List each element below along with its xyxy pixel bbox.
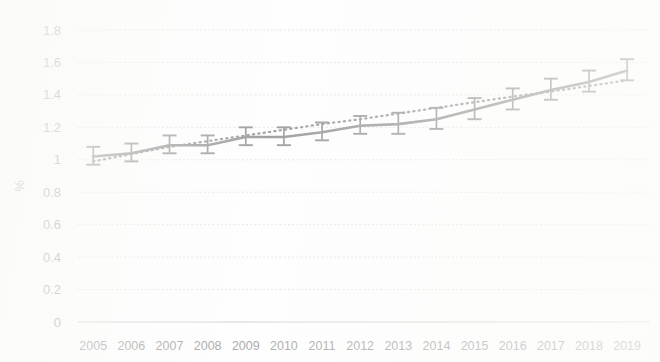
chart-container: 00.20.40.60.811.21.41.61.8%2005200620072… [0, 0, 660, 362]
ytick-label: 1.4 [43, 87, 61, 102]
data-series-line [93, 71, 627, 157]
xtick-label: 2010 [270, 339, 298, 353]
xtick-label: 2012 [346, 339, 374, 353]
ytick-label: 0.8 [43, 185, 61, 200]
xtick-label: 2016 [499, 339, 527, 353]
y-axis-title: % [12, 180, 27, 192]
xtick-label: 2013 [384, 339, 412, 353]
ytick-label: 0.4 [43, 250, 61, 265]
ytick-label: 0.6 [43, 217, 61, 232]
ytick-label: 1.8 [43, 23, 61, 38]
gridlines-group: 00.20.40.60.811.21.41.61.8 [43, 23, 650, 330]
xtick-label: 2011 [309, 339, 336, 353]
ytick-label: 0.2 [43, 282, 61, 297]
error-bars-group [86, 59, 634, 164]
xtick-labels-group: 2005200620072008200920102011201220132014… [79, 339, 641, 353]
xtick-label: 2009 [232, 339, 260, 353]
ytick-label: 1.2 [43, 120, 61, 135]
xtick-label: 2008 [194, 339, 222, 353]
ytick-label: 0 [54, 315, 61, 330]
xtick-label: 2006 [117, 339, 145, 353]
line-chart: 00.20.40.60.811.21.41.61.8%2005200620072… [0, 0, 660, 362]
xtick-label: 2017 [537, 339, 565, 353]
ytick-label: 1.6 [43, 55, 61, 70]
xtick-label: 2019 [613, 339, 641, 353]
xtick-label: 2007 [156, 339, 184, 353]
xtick-label: 2005 [79, 339, 107, 353]
xtick-label: 2014 [423, 339, 451, 353]
xtick-label: 2018 [575, 339, 603, 353]
ytick-label: 1 [54, 152, 61, 167]
xtick-label: 2015 [461, 339, 489, 353]
